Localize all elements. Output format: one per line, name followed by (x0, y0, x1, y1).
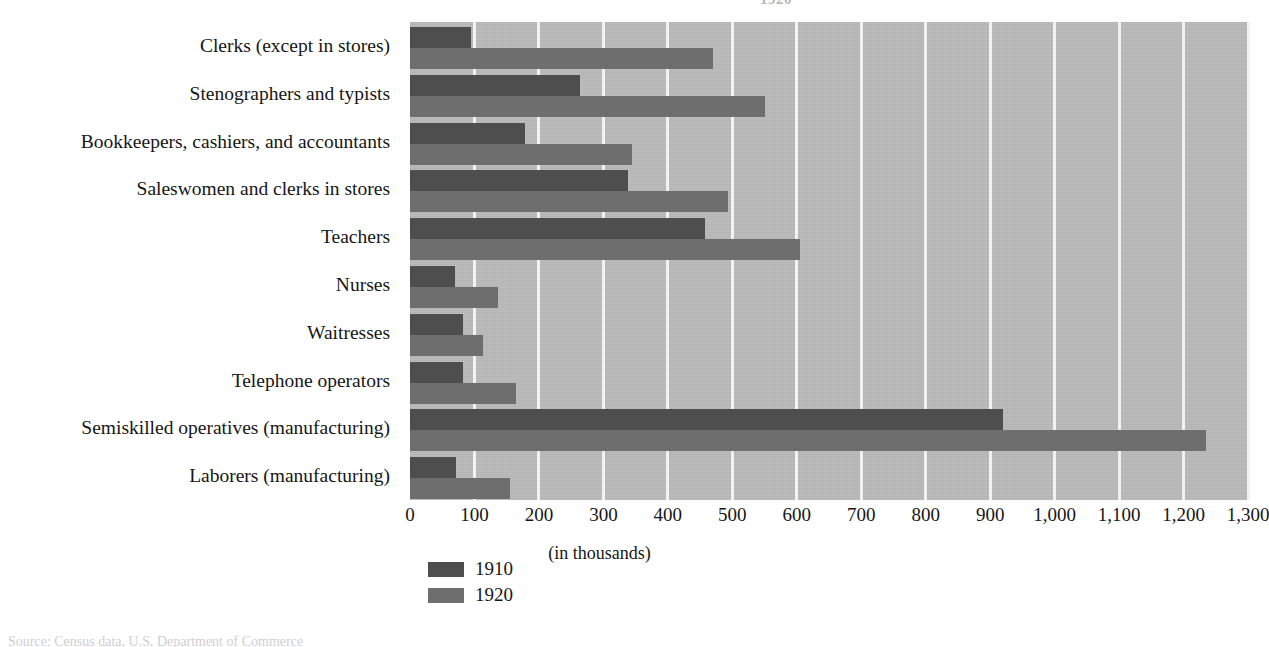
chart-legend: 1910 1920 (428, 556, 513, 608)
bar-1920 (410, 96, 765, 117)
bar-row (410, 75, 1248, 123)
bar-1910 (410, 170, 628, 191)
bar-1920 (410, 335, 483, 356)
bar-row (410, 123, 1248, 171)
category-label: Waitresses (0, 323, 390, 343)
bar-1920 (410, 48, 713, 69)
bar-1910 (410, 362, 463, 383)
legend-item-1910: 1910 (428, 556, 513, 582)
clipped-title-remnant: 1920 (760, 0, 792, 8)
bar-1910 (410, 218, 705, 239)
gridline-1,000 (1053, 22, 1056, 500)
bar-row (410, 314, 1248, 362)
category-label: Teachers (0, 227, 390, 247)
category-label: Laborers (manufacturing) (0, 466, 390, 486)
x-tick-100: 100 (460, 505, 489, 524)
x-tick-1,200: 1,200 (1162, 505, 1205, 524)
bar-1920 (410, 144, 632, 165)
bar-1910 (410, 75, 580, 96)
x-tick-300: 300 (589, 505, 618, 524)
category-label: Saleswomen and clerks in stores (0, 179, 390, 199)
bar-1920 (410, 191, 728, 212)
bar-row (410, 218, 1248, 266)
category-label: Stenographers and typists (0, 84, 390, 104)
legend-swatch-1920 (428, 588, 464, 603)
bar-1910 (410, 266, 455, 287)
gridline-1,200 (1182, 22, 1185, 500)
bar-1910 (410, 27, 471, 48)
bar-1910 (410, 123, 525, 144)
x-axis-tick-labels: 01002003004005006007008009001,0001,1001,… (0, 505, 1269, 531)
x-tick-700: 700 (847, 505, 876, 524)
x-tick-600: 600 (783, 505, 812, 524)
x-tick-500: 500 (718, 505, 747, 524)
category-label-column: Clerks (except in stores)Stenographers a… (0, 22, 400, 500)
x-tick-1,000: 1,000 (1033, 505, 1076, 524)
x-axis-caption-text: (in thousands) (548, 543, 651, 563)
bar-1920 (410, 287, 498, 308)
category-label: Clerks (except in stores) (0, 36, 390, 56)
bar-row (410, 27, 1248, 75)
legend-label-1920: 1920 (475, 584, 513, 606)
legend-item-1920: 1920 (428, 582, 513, 608)
legend-label-1910: 1910 (475, 558, 513, 580)
bar-1910 (410, 409, 1003, 430)
gridline-1,300 (1247, 22, 1250, 500)
bar-row (410, 409, 1248, 457)
category-label: Semiskilled operatives (manufacturing) (0, 418, 390, 438)
bar-1920 (410, 239, 800, 260)
plot-area (410, 22, 1248, 500)
x-tick-800: 800 (911, 505, 940, 524)
bar-1920 (410, 383, 516, 404)
bar-1910 (410, 314, 463, 335)
x-tick-200: 200 (525, 505, 554, 524)
bar-row (410, 170, 1248, 218)
category-label: Bookkeepers, cashiers, and accountants (0, 132, 390, 152)
x-tick-0: 0 (405, 505, 415, 524)
bar-row (410, 457, 1248, 505)
bar-1920 (410, 430, 1206, 451)
legend-swatch-1910 (428, 562, 464, 577)
x-tick-400: 400 (654, 505, 683, 524)
category-label: Nurses (0, 275, 390, 295)
source-note: Source: Census data, U.S. Department of … (8, 634, 303, 647)
bar-1910 (410, 457, 456, 478)
x-tick-1,300: 1,300 (1227, 505, 1269, 524)
bar-chart-figure: 1920 Clerks (except in stores)Stenograph… (0, 0, 1269, 647)
x-tick-900: 900 (976, 505, 1005, 524)
bar-row (410, 362, 1248, 410)
gridline-1,100 (1118, 22, 1121, 500)
bar-row (410, 266, 1248, 314)
category-label: Telephone operators (0, 371, 390, 391)
x-axis-caption: (in thousands) (0, 543, 1269, 564)
bar-1920 (410, 478, 510, 499)
x-tick-1,100: 1,100 (1098, 505, 1141, 524)
